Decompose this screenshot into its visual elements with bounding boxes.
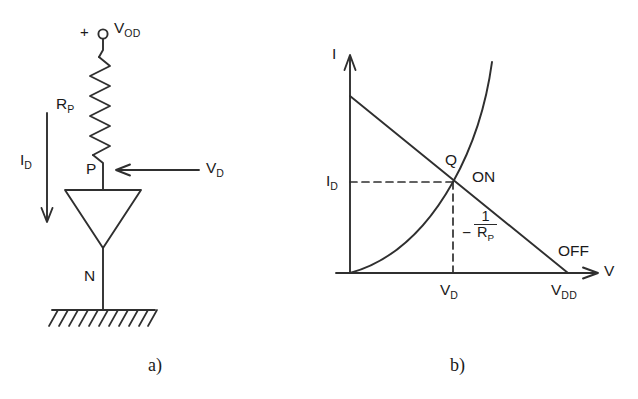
resistor-label-sub: P bbox=[67, 103, 74, 115]
supply-tick-label: VDD bbox=[551, 282, 577, 301]
voltage-tick-label: VD bbox=[440, 282, 458, 301]
slope-denominator-base: R bbox=[477, 224, 487, 240]
current-label: ID bbox=[20, 152, 32, 171]
iv-plot-drawing bbox=[320, 0, 638, 399]
x-axis-label: V bbox=[604, 263, 614, 279]
figure-container: + VOD RP ID P N VD a) bbox=[0, 0, 638, 399]
load-line-path bbox=[350, 96, 568, 273]
resistor-label: RP bbox=[56, 96, 74, 115]
slope-denominator-sub: P bbox=[487, 232, 494, 243]
supply-voltage-label: VOD bbox=[114, 20, 141, 39]
supply-voltage-sub: OD bbox=[124, 27, 140, 39]
y-axis-label: I bbox=[332, 46, 336, 62]
slope-fraction: 1 RP bbox=[474, 209, 497, 243]
ground-hatching bbox=[49, 310, 157, 326]
device-voltage-sub: D bbox=[216, 167, 224, 179]
current-tick-sub: D bbox=[330, 180, 338, 192]
voltage-tick-base: V bbox=[440, 281, 450, 298]
voltage-tick-sub: D bbox=[450, 289, 458, 301]
slope-numerator: 1 bbox=[474, 209, 497, 224]
device-voltage-base: V bbox=[206, 159, 216, 176]
node-p-label: P bbox=[86, 161, 96, 177]
current-label-sub: D bbox=[24, 159, 32, 171]
supply-voltage-base: V bbox=[114, 19, 124, 36]
current-arrow-down-shape bbox=[42, 113, 53, 222]
device-triangle-shape bbox=[65, 190, 141, 248]
resistor-zigzag bbox=[90, 57, 110, 155]
x-axis bbox=[336, 268, 598, 279]
y-axis bbox=[345, 55, 356, 273]
supply-tick-base: V bbox=[551, 281, 561, 298]
panel-b-caption: b) bbox=[450, 356, 465, 374]
resistor-label-base: R bbox=[56, 95, 67, 112]
node-n-label: N bbox=[84, 268, 95, 284]
slope-denominator: RP bbox=[474, 224, 497, 243]
supply-terminal-circle-shape bbox=[98, 29, 107, 38]
slope-minus-sign: − bbox=[462, 224, 471, 242]
off-state-label: OFF bbox=[558, 243, 589, 259]
panel-a-caption: a) bbox=[148, 356, 162, 374]
on-state-label: ON bbox=[472, 169, 495, 185]
device-voltage-label: VD bbox=[206, 160, 224, 179]
supply-tick-sub: DD bbox=[561, 289, 577, 301]
current-tick-label: ID bbox=[326, 173, 338, 192]
circuit-schematic-drawing bbox=[0, 0, 320, 399]
supply-polarity-label: + bbox=[80, 24, 89, 39]
operating-point-label: Q bbox=[445, 152, 457, 168]
voltage-arrow-left-shape bbox=[116, 165, 199, 176]
